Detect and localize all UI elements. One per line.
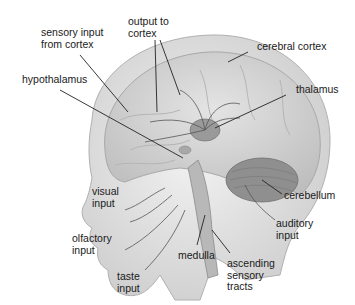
label-output-to-cortex: output to cortex xyxy=(128,16,169,39)
label-cerebral-cortex: cerebral cortex xyxy=(257,41,326,53)
label-ascending-sensory-tracts: ascending sensory tracts xyxy=(227,258,275,293)
label-hypothalamus: hypothalamus xyxy=(22,74,87,86)
label-sensory-input-from-cortex: sensory input from cortex xyxy=(41,27,103,50)
label-visual-input: visual input xyxy=(92,186,119,209)
hypothalamus-shape xyxy=(179,146,191,154)
label-olfactory-input: olfactory input xyxy=(72,233,112,256)
label-thalamus: thalamus xyxy=(296,84,339,96)
label-medulla: medulla xyxy=(178,250,215,262)
label-taste-input: taste input xyxy=(117,271,140,294)
label-cerebellum: cerebellum xyxy=(284,190,335,202)
label-auditory-input: auditory input xyxy=(276,218,313,241)
